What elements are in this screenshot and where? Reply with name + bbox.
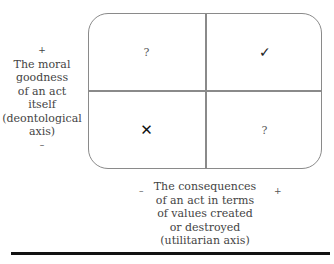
x-axis-line: of values created [150, 207, 260, 221]
question-mark-icon: ? [262, 124, 268, 137]
y-axis-line: itself [0, 98, 84, 112]
y-axis-line: The moral [0, 58, 84, 72]
y-axis-line: (deontological [0, 112, 84, 126]
question-mark-icon: ? [144, 46, 150, 59]
y-axis-label: + The moral goodness of an act itself (d… [0, 44, 84, 152]
y-axis-plus: + [0, 44, 84, 58]
x-axis-minus: – [139, 186, 144, 196]
x-axis-line: The consequences [150, 180, 260, 194]
x-axis-line: or destroyed [150, 221, 260, 235]
y-axis-line: goodness [0, 71, 84, 85]
bottom-rule [11, 252, 330, 255]
cell-bottom-left: ✕ [88, 91, 205, 169]
y-axis-line: axis) [0, 125, 84, 139]
cell-top-right: ✓ [206, 13, 323, 91]
y-axis-line: of an act [0, 85, 84, 99]
x-axis-plus: + [274, 186, 282, 196]
x-axis-label: The consequences of an act in terms of v… [150, 180, 260, 248]
cell-top-left: ? [88, 13, 205, 91]
x-axis-line: (utilitarian axis) [150, 234, 260, 248]
x-axis-line: of an act in terms [150, 194, 260, 208]
y-axis-minus: – [0, 139, 84, 153]
cross-icon: ✕ [140, 121, 153, 139]
cell-bottom-right: ? [206, 91, 323, 169]
checkmark-icon: ✓ [259, 44, 271, 60]
